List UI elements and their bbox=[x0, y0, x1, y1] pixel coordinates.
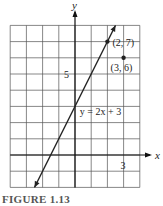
y-tick-label: 5 bbox=[64, 69, 69, 80]
equation-label: y = 2x + 3 bbox=[80, 106, 121, 117]
data-point bbox=[105, 39, 109, 43]
x-axis-label: x bbox=[154, 149, 160, 161]
data-point bbox=[121, 56, 125, 60]
x-axis-arrow-icon bbox=[145, 153, 152, 158]
y-axis-label: y bbox=[71, 0, 77, 11]
x-tick-label: 3 bbox=[121, 160, 126, 171]
point-label: (2, 7) bbox=[112, 37, 134, 49]
point-label: (3, 6) bbox=[111, 62, 133, 74]
line-chart: xy35y = 2x + 3(2, 7)(3, 6) bbox=[0, 0, 163, 206]
y-axis-arrow-icon bbox=[73, 10, 78, 17]
figure-caption: FIGURE 1.13 bbox=[2, 193, 70, 205]
